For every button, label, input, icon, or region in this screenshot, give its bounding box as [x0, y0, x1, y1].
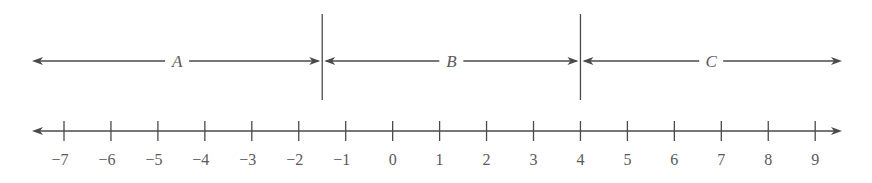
number-line: −7−6−5−4−3−2−10123456789: [32, 121, 842, 168]
tick-label: −2: [286, 151, 303, 168]
tick-label: 7: [717, 151, 725, 168]
tick-label: −5: [145, 151, 162, 168]
tick-label: 9: [811, 151, 819, 168]
region-c-label: C: [706, 52, 718, 71]
number-line-diagram: ABC −7−6−5−4−3−2−10123456789: [0, 0, 872, 183]
tick-label: 1: [436, 151, 444, 168]
tick-label: −7: [51, 151, 68, 168]
tick-label: 0: [389, 151, 397, 168]
tick-label: 5: [623, 151, 631, 168]
tick-label: 3: [530, 151, 538, 168]
tick-label: −4: [192, 151, 209, 168]
region-line: ABC: [32, 14, 842, 100]
region-a-label: A: [171, 52, 183, 71]
tick-label: −6: [98, 151, 115, 168]
region-b-label: B: [446, 52, 457, 71]
tick-label: −1: [333, 151, 350, 168]
tick-label: 6: [670, 151, 678, 168]
tick-label: −3: [239, 151, 256, 168]
tick-label: 2: [483, 151, 491, 168]
tick-label: 8: [764, 151, 772, 168]
tick-label: 4: [576, 151, 584, 168]
